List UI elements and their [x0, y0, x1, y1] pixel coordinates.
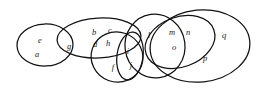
set-ellipse-tall-center-ellipse	[121, 10, 189, 82]
element-label-b: b	[92, 27, 96, 37]
element-label-m: m	[169, 27, 175, 37]
element-label-p: p	[202, 53, 207, 63]
element-label-f: f	[112, 62, 116, 72]
element-label-n: n	[186, 27, 190, 37]
euler-diagram-canvas: eagbcdhfijlmnopq	[0, 0, 256, 91]
element-label-l: l	[148, 30, 151, 40]
element-label-g: g	[67, 41, 71, 51]
element-label-o: o	[172, 42, 176, 52]
element-label-e: e	[38, 35, 42, 45]
euler-diagram-svg: eagbcdhfijlmnopq	[0, 0, 256, 91]
set-outlines-group	[16, 5, 253, 89]
element-label-c: c	[108, 25, 112, 35]
set-ellipse-left-ellipse	[16, 23, 73, 67]
element-label-q: q	[222, 30, 227, 40]
element-label-a: a	[35, 49, 39, 59]
element-label-h: h	[106, 38, 110, 48]
element-label-j: j	[129, 60, 133, 70]
